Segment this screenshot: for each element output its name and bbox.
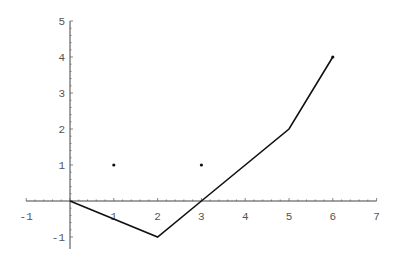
y-tick-label: 2 bbox=[58, 124, 65, 136]
line-endpoint bbox=[331, 55, 334, 58]
y-tick-label: 1 bbox=[58, 160, 65, 172]
data-point bbox=[112, 163, 115, 166]
y-tick-label: 3 bbox=[58, 88, 65, 100]
tick-labels: -11234567-112345 bbox=[20, 16, 380, 244]
data-line bbox=[70, 57, 333, 237]
y-tick-label: -1 bbox=[52, 232, 66, 244]
y-tick-label: 4 bbox=[58, 52, 65, 64]
x-tick-label: 7 bbox=[373, 211, 380, 223]
x-tick-label: 6 bbox=[329, 211, 336, 223]
x-tick-label: 5 bbox=[286, 211, 293, 223]
data-series bbox=[70, 55, 334, 237]
plot-canvas: -11234567-112345 bbox=[0, 0, 400, 258]
x-tick-label: 4 bbox=[242, 211, 249, 223]
x-tick-label: -1 bbox=[20, 211, 34, 223]
x-tick-label: 3 bbox=[198, 211, 205, 223]
x-tick-label: 2 bbox=[154, 211, 161, 223]
data-point bbox=[200, 163, 203, 166]
x-tick-label: 1 bbox=[110, 211, 117, 223]
y-tick-label: 5 bbox=[58, 16, 65, 28]
